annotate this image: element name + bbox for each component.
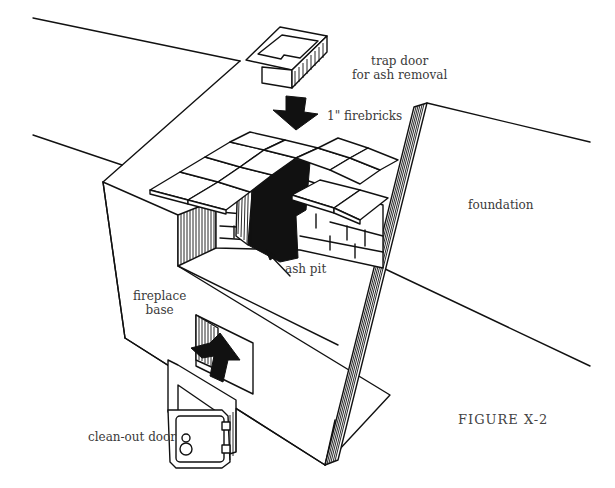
fireplace-foundation-diagram: trap door for ash removal 1" firebricks …	[0, 0, 615, 488]
trap-door	[246, 27, 327, 88]
fireplace-base-label-line2: base	[133, 303, 186, 317]
ash-pit-label: ash pit	[285, 262, 326, 276]
figure-caption: FIGURE X-2	[458, 412, 548, 427]
foundation-label: foundation	[468, 198, 534, 212]
door-handle-icon	[180, 434, 192, 455]
down-arrow-icon	[273, 96, 318, 130]
clean-out-door-label: clean-out door	[88, 430, 176, 444]
firebricks-label: 1" firebricks	[327, 109, 402, 123]
fireplace-base-label: fireplace base	[133, 289, 186, 317]
trap-door-label: trap door for ash removal	[352, 54, 447, 82]
trap-door-label-line1: trap door	[352, 54, 447, 68]
trap-door-label-line2: for ash removal	[352, 68, 447, 82]
fireplace-base-label-line1: fireplace	[133, 289, 186, 303]
